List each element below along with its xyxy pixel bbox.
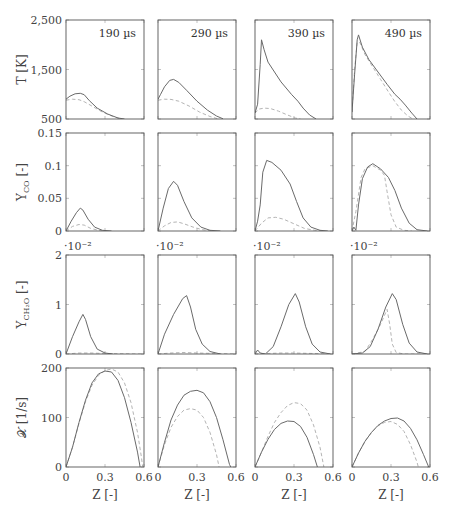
xtick-label: 0 bbox=[63, 471, 70, 484]
ytick-label: 0 bbox=[55, 225, 62, 238]
ylabel-chi: 𝒳 [1/s] bbox=[15, 397, 29, 438]
ytick-label: 200 bbox=[41, 362, 62, 375]
series-solid bbox=[66, 93, 125, 119]
multiplier-label: ·10⁻² bbox=[253, 240, 281, 253]
xtick-label: 0.3 bbox=[382, 471, 400, 484]
series-dashed bbox=[158, 99, 218, 119]
xtick-label: 0.6 bbox=[421, 471, 439, 484]
ytick-label: 0.1 bbox=[45, 160, 63, 173]
ytick-label: 0 bbox=[55, 461, 62, 474]
panel-chi-3: 00.30.6Z [-] bbox=[252, 368, 342, 502]
panel-chi-1: 010020000.30.6Z [-] bbox=[41, 362, 153, 502]
xtick-label: 0.6 bbox=[227, 471, 245, 484]
series-dashed bbox=[66, 369, 143, 467]
svg-text:YCH₂O [-]: YCH₂O [-] bbox=[15, 280, 31, 329]
series-dashed bbox=[255, 403, 324, 467]
series-solid bbox=[255, 294, 330, 354]
time-annotation: 190 µs bbox=[99, 27, 137, 40]
series-solid bbox=[158, 296, 220, 354]
figure-grid: T [K]5001,5002,500190 µs290 µs390 µs490 … bbox=[0, 0, 453, 515]
ytick-label: 100 bbox=[41, 412, 62, 425]
xlabel: Z [-] bbox=[92, 488, 118, 502]
series-solid bbox=[255, 40, 316, 119]
panel-T-4: 490 µs bbox=[352, 20, 430, 119]
ytick-label: 1,500 bbox=[31, 64, 63, 77]
multiplier-label: ·10⁻² bbox=[156, 240, 184, 253]
series-dashed bbox=[352, 166, 412, 231]
series-solid bbox=[255, 160, 328, 231]
multiplier-label: ·10⁻² bbox=[64, 240, 92, 253]
ytick-label: 500 bbox=[41, 113, 62, 126]
xtick-label: 0 bbox=[349, 471, 356, 484]
time-annotation: 290 µs bbox=[191, 27, 229, 40]
ytick-label: 0.15 bbox=[38, 127, 63, 140]
ytick-label: 2,500 bbox=[31, 14, 63, 27]
series-solid bbox=[352, 294, 427, 354]
series-dashed bbox=[352, 309, 430, 354]
ytick-label: 2 bbox=[55, 249, 62, 262]
panel-Y_CH2O-2: ·10⁻² bbox=[156, 240, 236, 354]
panel-Y_CO-3 bbox=[255, 133, 333, 231]
xtick-label: 0.3 bbox=[285, 471, 303, 484]
ylabel-T: T [K] bbox=[15, 54, 29, 84]
panel-Y_CO-2 bbox=[158, 133, 236, 231]
series-dashed bbox=[255, 108, 301, 119]
multiplier-label: ·10⁻² bbox=[350, 240, 378, 253]
panel-chi-4: 00.30.6Z [-] bbox=[349, 368, 439, 502]
series-dashed bbox=[352, 422, 418, 468]
series-dashed bbox=[255, 217, 323, 231]
series-dashed bbox=[352, 42, 413, 119]
xlabel: Z [-] bbox=[281, 488, 307, 502]
time-annotation: 390 µs bbox=[288, 27, 326, 40]
panel-Y_CH2O-4: ·10⁻² bbox=[350, 240, 430, 354]
panel-T-1: 5001,5002,500190 µs bbox=[31, 14, 145, 126]
series-solid bbox=[66, 371, 140, 467]
series-solid bbox=[158, 181, 220, 231]
xtick-label: 0 bbox=[155, 471, 162, 484]
series-solid bbox=[158, 390, 231, 467]
ytick-label: 1 bbox=[55, 299, 62, 312]
series-solid bbox=[66, 314, 113, 354]
panel-Y_CO-1: 00.050.10.15 bbox=[38, 127, 145, 238]
series-solid bbox=[352, 418, 429, 467]
panel-T-3: 390 µs bbox=[255, 20, 333, 119]
xtick-label: 0 bbox=[252, 471, 259, 484]
series-solid bbox=[352, 164, 427, 231]
series-solid bbox=[158, 79, 223, 118]
panel-Y_CH2O-1: 012·10⁻² bbox=[55, 240, 144, 361]
panel-Y_CO-4 bbox=[352, 133, 430, 231]
svg-text:𝒳 [1/s]: 𝒳 [1/s] bbox=[15, 397, 29, 438]
xtick-label: 0.6 bbox=[324, 471, 342, 484]
series-dashed bbox=[158, 409, 219, 467]
ytick-label: 0.05 bbox=[38, 192, 63, 205]
series-dashed bbox=[66, 225, 105, 232]
svg-text:T [K]: T [K] bbox=[15, 54, 29, 84]
ylabel-Y_CH2O: YCH₂O [-] bbox=[15, 280, 31, 329]
xlabel: Z [-] bbox=[378, 488, 404, 502]
xlabel: Z [-] bbox=[184, 488, 210, 502]
time-annotation: 490 µs bbox=[385, 27, 423, 40]
xtick-label: 0.3 bbox=[188, 471, 206, 484]
svg-text:YCO [-]: YCO [-] bbox=[15, 163, 31, 202]
panel-Y_CH2O-3: ·10⁻² bbox=[253, 240, 333, 354]
panel-T-2: 290 µs bbox=[158, 20, 236, 119]
xtick-label: 0.3 bbox=[96, 471, 114, 484]
xtick-label: 0.6 bbox=[135, 471, 153, 484]
ytick-label: 0 bbox=[55, 348, 62, 361]
panel-chi-2: 00.30.6Z [-] bbox=[155, 368, 245, 502]
ylabel-Y_CO: YCO [-] bbox=[15, 163, 31, 202]
series-dashed bbox=[158, 222, 213, 231]
